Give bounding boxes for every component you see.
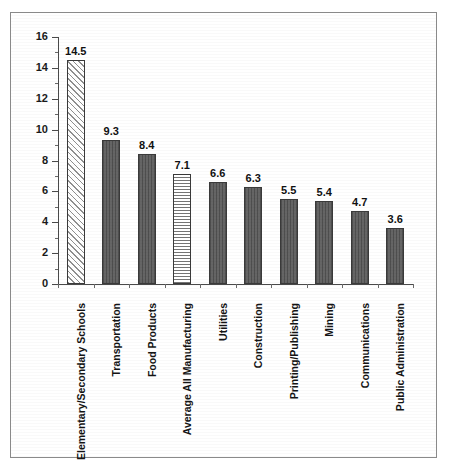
bar-rect [351, 211, 369, 284]
x-axis-tick-mark [413, 284, 414, 288]
bar-rect [244, 187, 262, 284]
bar: 7.1 [173, 174, 191, 284]
bar: 9.3 [102, 140, 120, 284]
category-label: Utilities [200, 303, 236, 463]
y-axis-tick-label: 2 [42, 246, 48, 259]
bar-value-label: 14.5 [55, 45, 97, 57]
y-axis-tick-label: 16 [36, 30, 48, 43]
figure-frame: 0246810121416 14.59.38.47.16.66.35.55.44… [10, 12, 437, 458]
category-label: Printing/Publishing [271, 303, 307, 463]
x-axis-tick-mark [129, 284, 130, 288]
bar-rect [173, 174, 191, 284]
bar-value-label: 8.4 [126, 139, 168, 151]
bar-rect [280, 199, 298, 284]
bar: 8.4 [138, 154, 156, 284]
bar-rect [138, 154, 156, 284]
category-label: Mining [307, 303, 343, 463]
bar-value-label: 6.3 [232, 172, 274, 184]
y-axis-tick-label: 8 [42, 154, 48, 167]
category-label: Food Products [129, 303, 165, 463]
bar-rect [67, 60, 85, 284]
category-label-text: Utilities [218, 303, 229, 341]
x-axis-tick-mark [236, 284, 237, 288]
category-label-text: Public Administration [395, 303, 406, 411]
category-label-text: Construction [253, 303, 264, 368]
bar: 14.5 [67, 60, 85, 284]
bar-rect [386, 228, 404, 284]
category-label: Average All Manufacturing [165, 303, 201, 463]
category-label: Communications [342, 303, 378, 463]
y-axis-tick-label: 4 [42, 215, 48, 228]
category-label-text: Communications [360, 303, 371, 388]
x-axis-tick-mark [58, 284, 59, 288]
bar: 4.7 [351, 211, 369, 284]
bar-rect [209, 182, 227, 284]
category-label: Public Administration [378, 303, 414, 463]
bar-rect [102, 140, 120, 284]
x-axis-tick-mark [342, 284, 343, 288]
category-label-text: Transportation [111, 303, 122, 377]
bar: 3.6 [386, 228, 404, 284]
category-label-text: Mining [324, 303, 335, 337]
bar-value-label: 4.7 [339, 196, 381, 208]
category-label-text: Food Products [147, 303, 158, 377]
plot-area: 14.59.38.47.16.66.35.55.44.73.6 [58, 37, 413, 284]
bar: 6.6 [209, 182, 227, 284]
category-label-text: Printing/Publishing [289, 303, 300, 399]
x-axis-tick-mark [378, 284, 379, 288]
bar-value-label: 3.6 [374, 213, 416, 225]
y-axis-tick-label: 12 [36, 92, 48, 105]
y-axis-tick-label: 10 [36, 123, 48, 136]
category-label-text: Elementary/Secondary Schools [76, 303, 87, 460]
y-axis-tick-label: 0 [42, 277, 48, 290]
category-label: Transportation [94, 303, 130, 463]
category-label: Elementary/Secondary Schools [58, 303, 94, 463]
x-axis-tick-mark [271, 284, 272, 288]
category-label-text: Average All Manufacturing [182, 303, 193, 435]
x-axis-tick-mark [165, 284, 166, 288]
y-axis-tick-label: 6 [42, 184, 48, 197]
x-axis-tick-mark [94, 284, 95, 288]
bar: 5.4 [315, 201, 333, 284]
x-axis-tick-mark [307, 284, 308, 288]
bar: 5.5 [280, 199, 298, 284]
x-axis-tick-mark [200, 284, 201, 288]
bar: 6.3 [244, 187, 262, 284]
bar-rect [315, 201, 333, 284]
y-axis-tick-label: 14 [36, 61, 48, 74]
category-label: Construction [236, 303, 272, 463]
bar-value-label: 9.3 [90, 125, 132, 137]
